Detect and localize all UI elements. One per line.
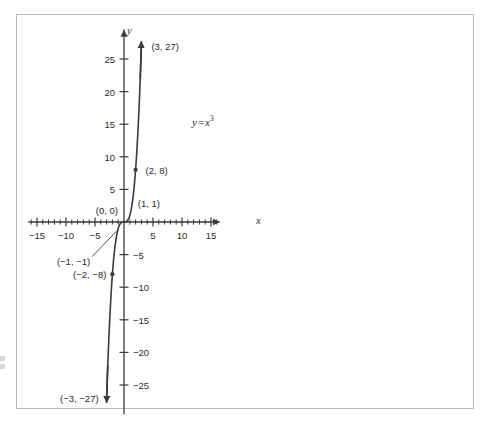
point-label: (0, 0) <box>96 205 118 216</box>
equation-operator: = <box>197 116 205 128</box>
y-axis-tick-label: −10 <box>133 282 149 293</box>
point-label: (−3, −27) <box>60 393 99 404</box>
x-axis-tick-label: 15 <box>206 230 217 241</box>
x-axis-tick-label: −10 <box>58 230 74 241</box>
y-axis-tick-label: −25 <box>133 380 149 391</box>
y-axis-tick-label: −15 <box>133 314 149 325</box>
x-axis-tick-label: −15 <box>29 230 45 241</box>
y-axis-tick-label: −20 <box>133 347 149 358</box>
y-axis-tick-label: −5 <box>133 249 144 260</box>
plot-area: −15−10−551015−25−20−15−10−5510152025(3, … <box>0 0 496 422</box>
data-point-marker <box>110 272 114 276</box>
figure-root: −15−10−551015−25−20−15−10−5510152025(3, … <box>0 0 496 422</box>
point-label: (1, 1) <box>138 198 160 209</box>
point-label: (2, 8) <box>146 164 168 175</box>
point-label: (3, 27) <box>151 40 178 51</box>
equation-annotation: y=x3 <box>192 116 214 128</box>
y-axis-tick-label: 5 <box>110 184 115 195</box>
equation-exponent: 3 <box>210 114 214 123</box>
y-axis-tick-label: 15 <box>104 119 115 130</box>
y-axis-tick-label: 20 <box>104 86 115 97</box>
x-axis-tick-label: −5 <box>90 230 101 241</box>
data-point-marker <box>134 168 138 172</box>
point-label: (−1, −1) <box>57 255 90 266</box>
plot-canvas <box>0 0 496 422</box>
x-axis-tick-label: 5 <box>150 230 155 241</box>
x-axis-tick-label: 10 <box>177 230 188 241</box>
y-axis-tick-label: 25 <box>104 54 115 65</box>
y-axis-tick-label: 10 <box>104 151 115 162</box>
y-axis-name: y <box>127 25 132 36</box>
point-label: (−2, −8) <box>73 269 106 280</box>
x-axis-name: x <box>256 215 261 226</box>
